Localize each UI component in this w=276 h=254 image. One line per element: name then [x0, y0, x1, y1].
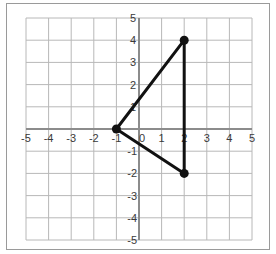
y-tick-label: 2 [130, 79, 136, 91]
x-tick-label: 5 [249, 132, 255, 144]
x-tick-label: -3 [66, 132, 76, 144]
y-tick-label: -2 [127, 167, 137, 179]
y-tick-label: 4 [130, 34, 136, 46]
x-tick-label: 0 [139, 132, 145, 144]
y-tick-label: -4 [127, 212, 137, 224]
coordinate-plane: -5-4-3-2-1012345 54321-1-2-3-4-5 [0, 0, 276, 254]
x-tick-label: 4 [226, 132, 232, 144]
axes [26, 18, 252, 240]
y-tick-label: -5 [127, 234, 137, 246]
vertex-point [180, 169, 189, 178]
x-tick-label: 1 [159, 132, 165, 144]
y-tick-label: 3 [130, 56, 136, 68]
x-tick-label: -4 [44, 132, 54, 144]
x-tick-label: 3 [204, 132, 210, 144]
x-tick-label: -1 [112, 132, 122, 144]
y-tick-label: 5 [130, 12, 136, 24]
vertex-point [180, 36, 189, 45]
y-tick-label: -3 [127, 190, 137, 202]
x-tick-label: -2 [89, 132, 99, 144]
x-tick-label: -5 [21, 132, 31, 144]
y-tick-label: -1 [127, 145, 137, 157]
vertex-point [112, 125, 121, 134]
